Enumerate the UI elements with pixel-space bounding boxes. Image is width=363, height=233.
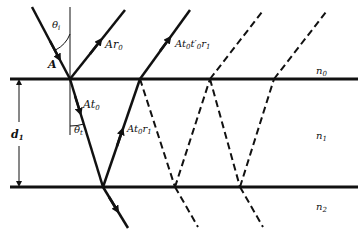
theta-i-arc <box>56 34 71 50</box>
medium-n2-label: n2 <box>316 201 327 214</box>
transmitted-arrow <box>75 96 80 112</box>
exit-arrow <box>109 197 117 210</box>
medium-n0-label: n0 <box>316 65 327 78</box>
theta-i-label: θi <box>52 19 60 32</box>
incident-arrow <box>50 41 59 58</box>
dashed-rays <box>140 12 326 227</box>
reflected-amplitude-label: Ar0 <box>104 38 123 52</box>
incident-amplitude-label: A <box>47 58 57 71</box>
second-emerging-label: At0t′0r1 <box>174 38 211 51</box>
thin-film-diagram: θi θt A Ar0 At0 At0r1 At0t′0r1 d1 n0 n1 … <box>0 0 363 233</box>
thickness-label: d1 <box>11 128 24 142</box>
internal-reflected-arrow <box>117 131 122 146</box>
transmitted-amplitude-label: At0 <box>82 98 100 112</box>
medium-n1-label: n1 <box>316 130 327 143</box>
internal-reflected-label: At0r1 <box>126 123 152 136</box>
theta-t-label: θt <box>74 124 83 137</box>
second-emerging-arrow <box>160 39 169 51</box>
reflected-arrow <box>90 41 100 54</box>
